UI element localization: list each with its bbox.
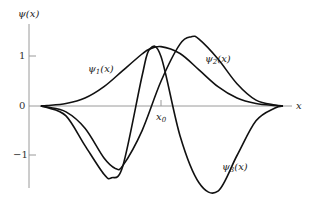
wavefunction-chart: ψ(x) x 1 0 −1 x0 ψ1(x) ψ2(x) ψ3(x)	[0, 0, 311, 201]
psi1-label: ψ1(x)	[88, 63, 114, 76]
psi2-label: ψ2(x)	[205, 53, 231, 66]
y-tick-label-0: 0	[19, 100, 25, 111]
psi2-curve	[41, 36, 283, 170]
x-axis-label: x	[296, 100, 302, 111]
y-tick-label-m1: −1	[13, 149, 28, 160]
y-axis-label: ψ(x)	[18, 8, 39, 19]
x0-label: x0	[156, 111, 167, 124]
y-axis-label-text: ψ(x)	[18, 8, 39, 19]
psi1-curve	[41, 46, 283, 106]
y-tick-label-1: 1	[19, 50, 25, 61]
psi3-label: ψ3(x)	[222, 161, 248, 174]
